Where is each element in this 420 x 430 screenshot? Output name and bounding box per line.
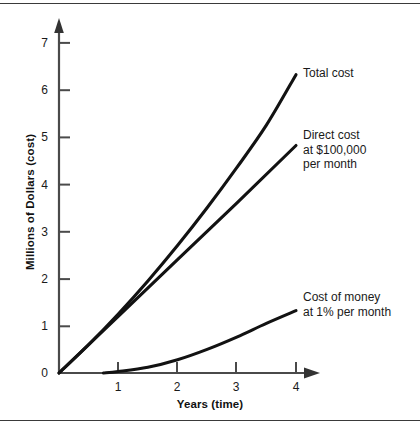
chart-figure: 7 6 5 4 3 2 1 0 1 2 3 4 Millions of Doll…: [0, 0, 420, 430]
annotation-direct-cost: Direct cost at $100,000 per month: [303, 128, 366, 172]
x-axis: [59, 368, 320, 379]
y-axis-ticks: [59, 43, 70, 326]
y-tick-label-1: 1: [32, 320, 48, 332]
x-tick-label-2: 2: [169, 381, 185, 393]
chart-plot-area: [0, 0, 420, 430]
y-axis: [54, 18, 64, 373]
series-direct-cost: [59, 146, 296, 374]
y-axis-title: Millions of Dollars (cost): [24, 112, 36, 292]
x-tick-label-3: 3: [228, 381, 244, 393]
annotation-total-cost: Total cost: [303, 66, 354, 81]
x-tick-label-1: 1: [110, 381, 126, 393]
series-cost-of-money: [103, 311, 296, 373]
x-axis-title: Years (time): [0, 398, 420, 410]
y-tick-label-6: 6: [32, 84, 48, 96]
y-tick-label-7: 7: [32, 37, 48, 49]
y-tick-label-0: 0: [32, 367, 48, 379]
annotation-cost-of-money: Cost of money at 1% per month: [303, 290, 391, 319]
x-tick-label-4: 4: [288, 381, 304, 393]
series-total-cost: [59, 75, 296, 373]
